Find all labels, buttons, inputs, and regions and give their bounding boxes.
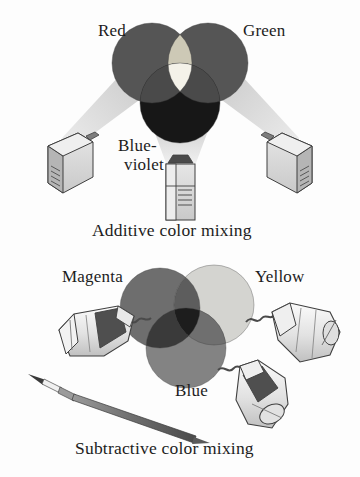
label-magenta: Magenta — [62, 268, 123, 285]
label-blue-violet-line2: violet — [124, 156, 164, 173]
paint-tube-bottom — [218, 360, 288, 428]
projector-left — [48, 132, 99, 193]
color-mixing-figure: Red Green Blue- violet Additive color mi… — [0, 0, 360, 477]
label-blue-violet-line1: Blue- — [118, 137, 157, 154]
label-green: Green — [243, 22, 286, 39]
label-red: Red — [98, 22, 126, 39]
label-yellow: Yellow — [255, 268, 305, 285]
caption-subtractive: Subtractive color mixing — [75, 440, 254, 458]
projector-right — [261, 132, 312, 193]
paint-tube-right — [246, 303, 340, 362]
label-blue: Blue — [175, 382, 208, 399]
caption-additive: Additive color mixing — [92, 222, 252, 240]
projector-bottom — [166, 155, 195, 220]
additive-venn — [112, 23, 248, 143]
